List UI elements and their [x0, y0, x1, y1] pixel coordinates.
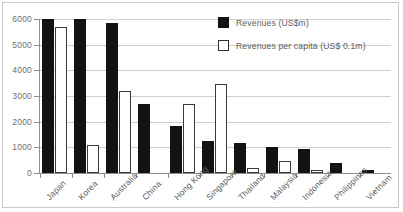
- bar-revenues: [298, 149, 310, 173]
- bar-revenues: [138, 104, 150, 173]
- legend-item-revenues-per-capita: Revenues per capita (US$ 0.1m): [218, 40, 366, 51]
- y-tick: [34, 147, 39, 148]
- y-tick-label: 3000: [12, 91, 32, 101]
- y-tick: [34, 122, 39, 123]
- bar-revenues-per-capita: [183, 104, 195, 173]
- legend-item-revenues: Revenues (US$m): [218, 17, 366, 28]
- bar-revenues: [234, 143, 246, 173]
- x-axis-line: [39, 173, 391, 174]
- x-tick: [40, 173, 41, 178]
- chart-frame: 6000 5000 4000 3000 2000 1000 0 JapanKor…: [2, 2, 399, 208]
- x-axis-label: Japan: [44, 178, 68, 202]
- y-tick: [34, 45, 39, 46]
- x-axis-label: Korea: [76, 178, 100, 202]
- bar-group: [106, 19, 138, 173]
- y-tick-label: 0: [27, 168, 32, 178]
- bar-revenues: [74, 19, 86, 173]
- x-axis-label: Malaysia: [268, 170, 300, 202]
- y-tick-label: 2000: [12, 117, 32, 127]
- bar-revenues: [106, 23, 118, 173]
- bar-revenues-per-capita: [279, 161, 291, 173]
- x-axis-label: China: [140, 179, 163, 202]
- bar-revenues: [266, 147, 278, 173]
- bar-group: [74, 19, 106, 173]
- bar-group: [138, 19, 170, 173]
- x-tick: [104, 173, 105, 178]
- bar-revenues-per-capita: [119, 91, 131, 173]
- y-tick: [34, 96, 39, 97]
- y-tick-label: 4000: [12, 65, 32, 75]
- x-tick: [168, 173, 169, 178]
- x-axis-label: Australia: [108, 171, 139, 202]
- bar-revenues: [170, 126, 182, 173]
- outlined-square-icon: [218, 40, 229, 51]
- y-tick: [34, 70, 39, 71]
- legend-label: Revenues (US$m): [236, 18, 309, 28]
- x-axis-label: Thailand: [236, 171, 267, 202]
- bar-revenues-per-capita: [215, 84, 227, 173]
- chart-legend: Revenues (US$m) Revenues per capita (US$…: [218, 17, 366, 63]
- x-tick: [72, 173, 73, 178]
- y-tick-label: 5000: [12, 40, 32, 50]
- legend-label: Revenues per capita (US$ 0.1m): [236, 41, 366, 51]
- filled-square-icon: [218, 17, 229, 28]
- bar-revenues-per-capita: [87, 145, 99, 173]
- bar-group: [362, 19, 394, 173]
- y-tick-label: 1000: [12, 142, 32, 152]
- x-axis-label: Vietnam: [364, 172, 394, 202]
- y-tick: [34, 19, 39, 20]
- bar-revenues: [42, 19, 54, 173]
- bar-group: [170, 19, 202, 173]
- y-tick: [34, 173, 39, 174]
- bar-revenues-per-capita: [55, 27, 67, 173]
- y-tick-label: 6000: [12, 14, 32, 24]
- bar-revenues: [330, 163, 342, 173]
- bar-group: [42, 19, 74, 173]
- y-axis-line: [39, 19, 40, 174]
